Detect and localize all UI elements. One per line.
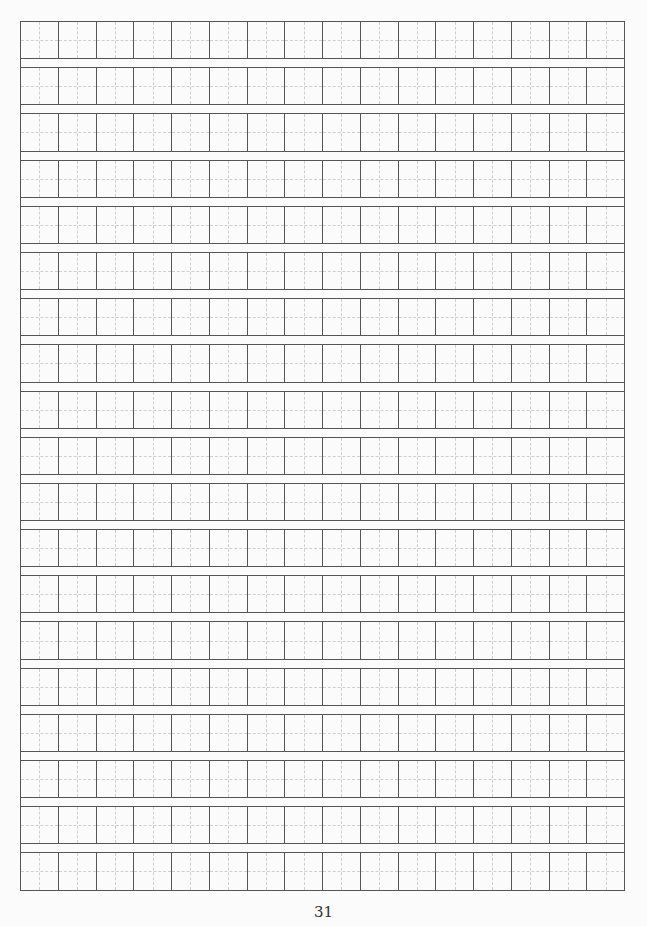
grid-cell: [21, 622, 59, 658]
grid-cell: [285, 438, 323, 474]
grid-row: [21, 113, 624, 151]
grid-cell: [59, 161, 97, 197]
row-gap: [21, 660, 624, 668]
grid-cell: [474, 114, 512, 150]
grid-cell: [512, 392, 550, 428]
grid-row: [21, 21, 624, 59]
grid-cell: [587, 438, 624, 474]
grid-cell: [361, 853, 399, 889]
grid-cell: [550, 345, 588, 381]
grid-cell: [587, 253, 624, 289]
grid-cell: [323, 253, 361, 289]
grid-cell: [134, 392, 172, 428]
grid-cell: [134, 853, 172, 889]
grid-cell: [134, 807, 172, 843]
grid-cell: [248, 530, 286, 566]
grid-cell: [436, 669, 474, 705]
grid-cell: [323, 114, 361, 150]
grid-cell: [361, 161, 399, 197]
grid-cell: [210, 761, 248, 797]
grid-cell: [474, 392, 512, 428]
grid-cell: [399, 715, 437, 751]
grid-cell: [512, 761, 550, 797]
grid-cell: [361, 622, 399, 658]
grid-cell: [210, 853, 248, 889]
grid-cell: [285, 761, 323, 797]
row-gap: [21, 290, 624, 298]
grid-cell: [97, 207, 135, 243]
grid-cell: [550, 853, 588, 889]
grid-cell: [134, 299, 172, 335]
grid-cell: [172, 438, 210, 474]
grid-cell: [21, 669, 59, 705]
grid-cell: [512, 299, 550, 335]
grid-cell: [97, 853, 135, 889]
grid-cell: [21, 807, 59, 843]
grid-cell: [436, 392, 474, 428]
row-gap: [21, 383, 624, 391]
grid-cell: [399, 530, 437, 566]
grid-cell: [512, 715, 550, 751]
grid-cell: [285, 22, 323, 58]
grid-cell: [210, 530, 248, 566]
grid-cell: [210, 715, 248, 751]
grid-cell: [172, 22, 210, 58]
grid-cell: [550, 114, 588, 150]
grid-cell: [59, 761, 97, 797]
grid-cell: [361, 253, 399, 289]
grid-cell: [399, 761, 437, 797]
grid-cell: [172, 622, 210, 658]
grid-cell: [134, 484, 172, 520]
grid-cell: [587, 715, 624, 751]
grid-cell: [436, 438, 474, 474]
grid-cell: [21, 530, 59, 566]
grid-cell: [436, 22, 474, 58]
grid-cell: [285, 114, 323, 150]
grid-cell: [210, 622, 248, 658]
grid-cell: [512, 853, 550, 889]
grid-cell: [361, 114, 399, 150]
grid-cell: [436, 253, 474, 289]
row-gap: [21, 567, 624, 575]
grid-cell: [248, 669, 286, 705]
grid-cell: [210, 22, 248, 58]
grid-row: [21, 852, 624, 890]
grid-cell: [550, 207, 588, 243]
grid-cell: [474, 576, 512, 612]
grid-cell: [248, 761, 286, 797]
grid-cell: [172, 715, 210, 751]
grid-cell: [285, 715, 323, 751]
grid-cell: [59, 114, 97, 150]
grid-cell: [59, 68, 97, 104]
grid-cell: [512, 669, 550, 705]
grid-cell: [172, 345, 210, 381]
grid-cell: [361, 299, 399, 335]
grid-cell: [323, 669, 361, 705]
grid-cell: [285, 807, 323, 843]
grid-cell: [134, 669, 172, 705]
grid-cell: [21, 715, 59, 751]
grid-cell: [436, 345, 474, 381]
row-gap: [21, 613, 624, 621]
grid-cell: [361, 530, 399, 566]
grid-row: [21, 160, 624, 198]
grid-cell: [436, 853, 474, 889]
grid-cell: [399, 345, 437, 381]
grid-row: [21, 437, 624, 475]
grid-cell: [172, 761, 210, 797]
grid-cell: [436, 114, 474, 150]
grid-cell: [248, 22, 286, 58]
grid-cell: [587, 530, 624, 566]
grid-cell: [59, 530, 97, 566]
grid-cell: [59, 715, 97, 751]
grid-cell: [399, 438, 437, 474]
grid-cell: [21, 68, 59, 104]
grid-cell: [21, 438, 59, 474]
grid-cell: [248, 68, 286, 104]
grid-cell: [512, 68, 550, 104]
grid-cell: [21, 761, 59, 797]
grid-row: [21, 806, 624, 844]
grid-cell: [210, 669, 248, 705]
grid-cell: [512, 114, 550, 150]
grid-cell: [550, 161, 588, 197]
